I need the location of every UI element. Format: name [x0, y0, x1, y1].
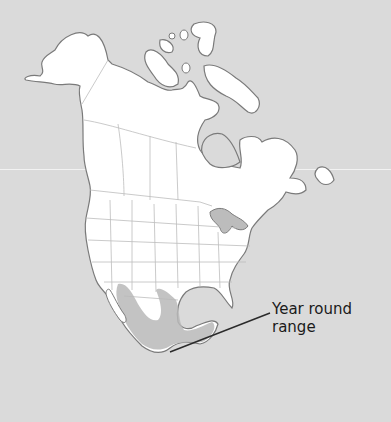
land-arctic-island-3	[191, 22, 216, 56]
range-label-line2: range	[272, 318, 352, 336]
map-canvas: Year round range	[0, 0, 391, 422]
land-arctic-island-1	[145, 50, 179, 87]
north-america-map	[0, 0, 391, 422]
land-arctic-island-4	[160, 40, 173, 53]
range-label: Year round range	[272, 300, 352, 336]
range-label-line1: Year round	[272, 300, 352, 318]
land-newfoundland	[315, 167, 334, 185]
land-arctic-island-6	[169, 33, 175, 39]
land-arctic-island-7	[182, 63, 190, 73]
land-arctic-island-5	[180, 30, 188, 40]
